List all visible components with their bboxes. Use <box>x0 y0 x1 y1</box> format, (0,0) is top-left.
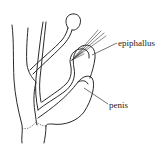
atrium-wall <box>27 28 37 125</box>
anatomical-diagram: epiphallus penis <box>0 0 166 150</box>
penis-leader-line <box>84 88 108 104</box>
penis-sheath-fold <box>78 81 88 84</box>
genital-pore-outline <box>22 122 46 129</box>
label-penis: penis <box>109 100 128 110</box>
epiphallus-inner <box>42 49 89 102</box>
epiphallus-leader-line <box>92 43 117 55</box>
spermatheca-bulb <box>66 14 81 30</box>
body-wall-right <box>44 126 46 143</box>
body-wall-left <box>12 25 22 143</box>
spermatheca-duct-upper <box>30 28 68 70</box>
label-epiphallus: epiphallus <box>118 38 155 48</box>
